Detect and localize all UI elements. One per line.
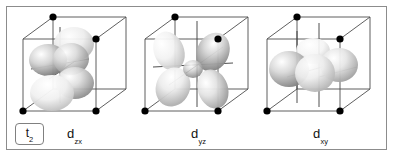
vertex-dot: [141, 107, 148, 114]
term-symbol-subscript: 2: [29, 135, 33, 144]
vertex-dot: [336, 107, 343, 114]
orbital-panel-dxy: dxy: [257, 7, 384, 149]
term-symbol-badge: t2: [15, 123, 44, 145]
orbital-label-dyz: dyz: [135, 127, 262, 143]
orbital-lobes-dxy: [269, 38, 358, 92]
vertex-dot: [92, 35, 99, 42]
vertex-dot: [19, 107, 26, 114]
orbital-lobes-dyz: [148, 27, 236, 113]
vertex-dot: [263, 107, 270, 114]
orbital-label-subscript: yz: [198, 137, 206, 146]
vertex-dot: [171, 13, 178, 20]
vertex-dot: [336, 35, 343, 42]
vertex-dot: [214, 35, 221, 42]
orbital-panel-dyz: dyz: [135, 7, 262, 149]
orbital-label-dxy: dxy: [257, 127, 384, 143]
vertex-dot: [214, 107, 221, 114]
vertex-dot: [49, 13, 56, 20]
orbital-diagram-dxy: [257, 7, 384, 125]
orbital-figure: dzx: [0, 0, 395, 162]
orbital-label-subscript: xy: [320, 137, 328, 146]
vertex-dot: [293, 13, 300, 20]
vertex-dot: [92, 107, 99, 114]
orbital-label-subscript: zx: [74, 137, 82, 146]
orbital-diagram-dyz: [135, 7, 262, 125]
term-symbol-text: t2: [26, 127, 34, 142]
figure-frame: dzx: [6, 6, 387, 150]
orbital-lobes-dzx: [29, 27, 94, 111]
orbital-diagram-dzx: [11, 7, 138, 125]
